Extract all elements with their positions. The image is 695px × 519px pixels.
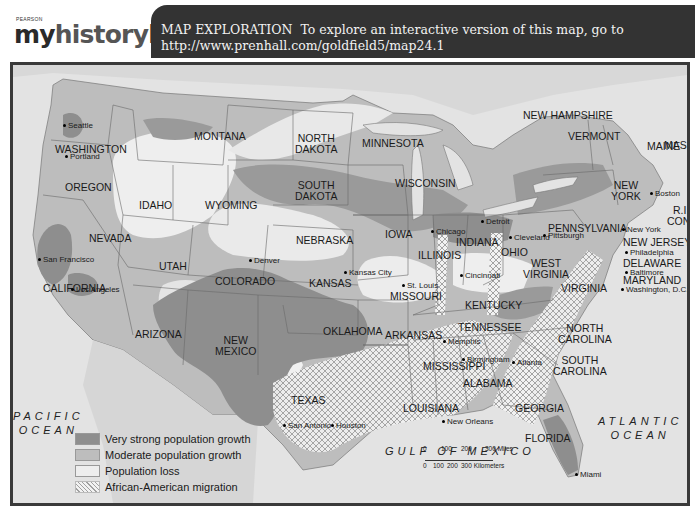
legend-label-loss: Population loss (105, 465, 180, 477)
scale-miles-100: 100 (441, 445, 452, 452)
legend-item-moderate: Moderate population growth (75, 447, 251, 463)
legend-item-loss: Population loss (75, 463, 251, 479)
city-boston: Boston (650, 189, 680, 198)
city-new-york: New York (622, 225, 661, 234)
legend-item-very-strong: Very strong population growth (75, 431, 251, 447)
state-label-south-dakota: SOUTH DAKOTA (295, 180, 337, 202)
city-detroit: Detroit (481, 217, 510, 226)
state-label-new-jersey: NEW JERSEY (623, 237, 690, 248)
brand-part-my: my (14, 20, 55, 49)
legend-label-very-strong: Very strong population growth (105, 433, 251, 445)
state-label-new-hampshire: NEW HAMPSHIRE (523, 110, 613, 121)
map-exploration-banner: MAP EXPLORATION To explore an interactiv… (151, 5, 695, 58)
legend-swatch-loss (75, 465, 100, 477)
scale-bar: 0 100 200 300 Miles 0 100 200 300 Kilome… (423, 445, 543, 470)
city-memphis: Memphis (443, 337, 480, 346)
legend-label-moderate: Moderate population growth (105, 449, 241, 461)
scale-km-100: 100 (433, 462, 444, 469)
city-new-orleans: New Orleans (442, 417, 493, 426)
state-label-oklahoma: OKLAHOMA (323, 326, 383, 337)
banner-title: MAP EXPLORATION (161, 22, 292, 37)
city-chicago: Chicago (431, 227, 465, 236)
city-st-louis: St. Louis (402, 281, 438, 290)
ocean-label-atlantic: ATLANTIC OCEAN (598, 414, 682, 442)
myhistorylab-logo: PEARSON myhistorylab (14, 16, 154, 52)
state-label-louisiana: LOUISIANA (403, 403, 459, 414)
city-seattle: Seattle (63, 121, 93, 130)
state-label-indiana: INDIANA (456, 237, 499, 248)
city-cincinnati: Cincinnati (460, 271, 500, 280)
city-los-angeles: Los Angeles (71, 285, 120, 294)
state-label-ohio: OHIO (501, 247, 528, 258)
banner-line-1: MAP EXPLORATION To explore an interactiv… (161, 22, 695, 38)
city-pittsburgh: Pittsburgh (543, 231, 584, 240)
city-denver: Denver (249, 256, 280, 265)
city-atlanta: Atlanta (512, 358, 542, 367)
banner-url[interactable]: http://www.prenhall.com/goldfield5/map24… (161, 38, 695, 54)
state-label-utah: UTAH (159, 261, 187, 272)
scale-miles-200: 200 (461, 445, 472, 452)
state-label-new-mexico: NEW MEXICO (215, 335, 256, 357)
state-label-illinois: ILLINOIS (418, 250, 461, 261)
city-philadelphia: Philadelphia (625, 248, 674, 257)
scale-line (425, 453, 493, 461)
state-label-oregon: OREGON (65, 182, 112, 193)
map-frame: WASHINGTON OREGON CALIFORNIA NEVADA IDAH… (10, 62, 690, 506)
scale-km: 0 100 200 300 Kilometers (423, 462, 543, 470)
city-baltimore: Baltimore (625, 268, 664, 277)
legend-label-migration: African-American migration (105, 481, 238, 493)
legend-item-migration: African-American migration (75, 479, 251, 495)
scale-miles-0: 0 (423, 445, 427, 452)
state-label-nevada: NEVADA (89, 233, 131, 244)
state-label-georgia: GEORGIA (515, 403, 564, 414)
scale-miles: 0 100 200 300 Miles (423, 445, 543, 453)
state-label-north-dakota: NORTH DAKOTA (295, 133, 337, 155)
state-label-north-carolina: NORTH CAROLINA (558, 323, 612, 345)
city-houston: Houston (331, 421, 366, 430)
state-label-arizona: ARIZONA (135, 329, 182, 340)
state-label-alabama: ALABAMA (463, 378, 513, 389)
state-label-colorado: COLORADO (215, 276, 275, 287)
state-label-wisconsin: WISCONSIN (395, 178, 456, 189)
state-label-mass: MASS. (664, 140, 690, 151)
scale-miles-300: 300 Miles (485, 445, 513, 452)
legend-swatch-moderate (75, 449, 100, 461)
state-label-texas: TEXAS (291, 395, 325, 406)
state-label-wyoming: WYOMING (205, 200, 258, 211)
state-label-south-carolina: SOUTH CAROLINA (553, 355, 607, 377)
scale-km-200: 200 (447, 462, 458, 469)
city-san-antonio: San Antonio (283, 421, 331, 430)
state-label-conn: CONN. (667, 216, 690, 227)
state-label-iowa: IOWA (385, 229, 413, 240)
state-label-west-virginia: WEST VIRGINIA (523, 258, 569, 280)
state-label-nebraska: NEBRASKA (296, 235, 353, 246)
state-label-virginia: VIRGINIA (561, 283, 607, 294)
ocean-label-pacific: PACIFIC OCEAN (13, 409, 84, 437)
state-label-montana: MONTANA (194, 131, 246, 142)
brand-part-history: history (55, 20, 148, 49)
city-portland: Portland (65, 152, 100, 161)
city-miami: Miami (575, 470, 601, 479)
city-kansas-city: Kansas City (344, 268, 392, 277)
state-label-florida: FLORIDA (525, 433, 571, 444)
city-birmingham: Birmingham (462, 355, 510, 364)
state-label-vermont: VERMONT (568, 131, 621, 142)
banner-text: To explore an interactive version of thi… (300, 22, 623, 37)
scale-km-300: 300 Kilometers (461, 462, 504, 469)
state-label-idaho: IDAHO (139, 200, 172, 211)
map-legend: Very strong population growth Moderate p… (75, 431, 251, 495)
state-label-arkansas: ARKANSAS (385, 330, 442, 341)
city-washington-dc: Washington, D.C. (621, 285, 688, 294)
state-label-new-york: NEW YORK (611, 180, 641, 202)
state-label-minnesota: MINNESOTA (362, 138, 424, 149)
state-label-tennessee: TENNESSEE (458, 322, 522, 333)
state-label-kentucky: KENTUCKY (465, 300, 522, 311)
scale-km-0: 0 (423, 462, 427, 469)
legend-swatch-migration (75, 481, 100, 493)
state-label-kansas: KANSAS (309, 278, 352, 289)
state-label-missouri: MISSOURI (390, 291, 442, 302)
city-san-francisco: San Francisco (38, 255, 94, 264)
legend-swatch-very-strong (75, 433, 100, 445)
